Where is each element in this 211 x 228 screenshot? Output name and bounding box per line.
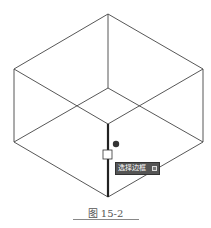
selection-tooltip[interactable]: 选择边框 [115, 162, 160, 175]
cursor-dot-icon [113, 141, 119, 147]
top-back-edges [14, 14, 203, 69]
grip-square[interactable] [103, 150, 112, 159]
drawing-canvas[interactable] [0, 0, 211, 228]
caption-underline [73, 219, 139, 220]
dropdown-box-icon[interactable] [152, 166, 157, 171]
tooltip-label: 选择边框 [118, 165, 146, 172]
bottom-left-edge [14, 142, 108, 197]
figure-caption: 图 15-2 [0, 205, 211, 220]
